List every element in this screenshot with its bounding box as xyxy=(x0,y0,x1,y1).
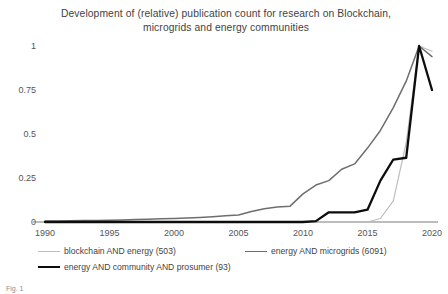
y-axis-tick-label: 0.25 xyxy=(18,173,36,183)
legend-label-prosumer: energy AND community AND prosumer (93) xyxy=(64,262,231,272)
x-axis-tick-label: 2000 xyxy=(164,228,184,238)
chart-title-line-2: microgrids and energy communities xyxy=(143,22,309,33)
legend-swatch-blockchain-icon xyxy=(38,251,60,252)
x-axis-tick-label: 2005 xyxy=(228,228,248,238)
chart-legend: blockchain AND energy (503) energy AND m… xyxy=(0,246,448,280)
series-line xyxy=(45,46,432,222)
x-axis-tick-labels: 1990199520002005201020152020 xyxy=(35,228,442,238)
x-axis-tick-label: 1990 xyxy=(35,228,55,238)
y-axis-tick-label: 0.75 xyxy=(18,85,36,95)
y-axis-tick-label: 1 xyxy=(31,41,36,51)
legend-row-2: energy AND community AND prosumer (93) xyxy=(0,262,448,277)
y-axis-tick-labels: 00.250.50.751 xyxy=(18,41,36,227)
legend-swatch-microgrids-icon xyxy=(245,251,267,252)
x-axis-tick-label: 2010 xyxy=(293,228,313,238)
line-chart-svg: 00.250.50.751 19901995200020052010201520… xyxy=(0,36,448,241)
chart-title: Development of (relative) publication co… xyxy=(40,7,412,35)
chart-figure: Development of (relative) publication co… xyxy=(0,0,448,294)
legend-label-blockchain: blockchain AND energy (503) xyxy=(64,246,176,256)
figure-caption: Fig. 1 xyxy=(6,284,442,294)
y-axis-tick-label: 0.5 xyxy=(23,129,36,139)
legend-swatch-prosumer-icon xyxy=(38,266,60,268)
plot-area: 00.250.50.751 19901995200020052010201520… xyxy=(0,36,448,241)
legend-row-1: blockchain AND energy (503) energy AND m… xyxy=(0,246,448,261)
chart-series-group xyxy=(45,46,432,222)
legend-item-blockchain[interactable]: blockchain AND energy (503) xyxy=(38,246,176,256)
legend-item-prosumer[interactable]: energy AND community AND prosumer (93) xyxy=(38,262,231,272)
x-axis-tick-label: 2020 xyxy=(422,228,442,238)
x-axis-tick-label: 2015 xyxy=(357,228,377,238)
legend-item-microgrids[interactable]: energy AND microgrids (6091) xyxy=(245,246,387,256)
chart-title-line-1: Development of (relative) publication co… xyxy=(61,8,391,19)
x-axis-tick-label: 1995 xyxy=(99,228,119,238)
legend-label-microgrids: energy AND microgrids (6091) xyxy=(271,246,387,256)
